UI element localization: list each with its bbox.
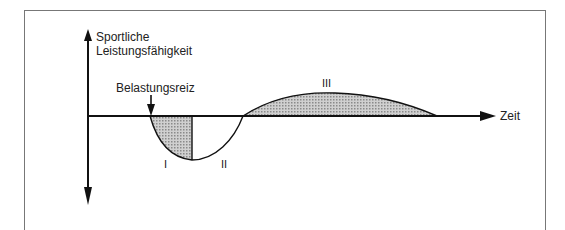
phase-1-area [150,116,192,160]
y-axis-label-line-2: Leistungsfähigkeit [96,44,192,58]
x-axis-label: Zeit [500,109,520,123]
supercompensation-diagram [0,0,565,230]
y-axis-label-line-1: Sportliche [96,30,192,44]
x-axis-arrow-icon [480,111,496,121]
phase-3-label: III [322,76,331,90]
y-axis-down-arrow-icon [84,187,92,205]
y-axis-label: Sportliche Leistungsfähigkeit [96,30,192,58]
phase-2-label: II [221,157,227,171]
y-axis-up-arrow-icon [84,29,92,41]
stimulus-label: Belastungsreiz [116,81,195,95]
stimulus-arrow-icon [147,104,155,116]
phase-1-label: I [164,157,167,171]
